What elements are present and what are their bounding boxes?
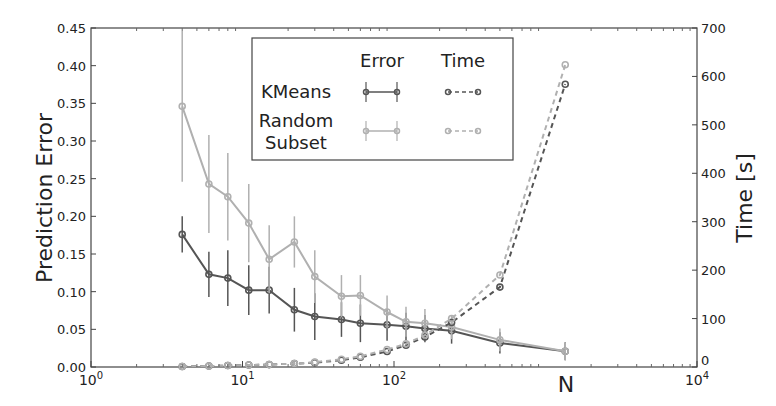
- y2-tick-label: 500: [701, 118, 726, 133]
- y-tick-label: 0.35: [57, 96, 86, 111]
- legend-column-header: Time: [440, 50, 485, 71]
- x-axis-label: N: [558, 372, 574, 397]
- y2-tick-label: 300: [701, 215, 726, 230]
- legend: ErrorTimeKMeansRandomSubset: [252, 38, 513, 160]
- series-kmeans-error: [179, 216, 568, 360]
- legend-column-header: Error: [360, 50, 404, 71]
- y-axis-label: Prediction Error: [32, 112, 57, 283]
- chart-container: 0.000.050.100.150.200.250.300.350.400.45…: [0, 0, 776, 406]
- legend-row-label: Random: [259, 110, 334, 131]
- legend-row-label: KMeans: [261, 81, 331, 102]
- x-tick-label: 104: [685, 370, 709, 388]
- x-tick-label: 101: [230, 370, 254, 388]
- y2-tick-label: 700: [701, 21, 726, 36]
- y2-tick-label: 0: [701, 353, 709, 368]
- y-tick-label: 0.45: [57, 21, 86, 36]
- y2-tick-label: 200: [701, 263, 726, 278]
- series-line: [182, 234, 565, 351]
- y2-tick-label: 400: [701, 166, 726, 181]
- y-tick-label: 0.25: [57, 172, 86, 187]
- y-tick-label: 0.40: [57, 59, 86, 74]
- y-tick-label: 0.05: [57, 322, 86, 337]
- y-tick-label: 0.20: [57, 209, 86, 224]
- y-tick-label: 0.15: [57, 247, 86, 262]
- y2-tick-label: 100: [701, 312, 726, 327]
- x-tick-label: 102: [382, 370, 406, 388]
- y2-axis-label: Time [s]: [732, 153, 757, 243]
- legend-row-label: Subset: [265, 132, 327, 153]
- y-tick-label: 0.30: [57, 134, 86, 149]
- x-tick-label: 100: [79, 370, 103, 388]
- y2-tick-label: 600: [701, 69, 726, 84]
- y-tick-label: 0.10: [57, 285, 86, 300]
- prediction-error-time-chart: 0.000.050.100.150.200.250.300.350.400.45…: [0, 0, 776, 406]
